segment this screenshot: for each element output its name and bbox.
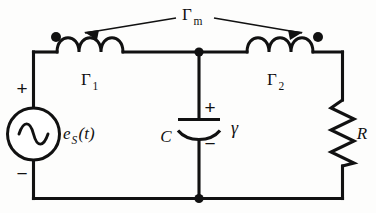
inductor-left-symbol: Γ [81,70,91,89]
label-inductor-right: Γ 2 [267,70,285,92]
resistor-zigzag [331,100,354,166]
circuit-canvas: Γ m Γ 1 Γ 2 e S (t) + − C γ + [0,0,376,213]
inductor-left-subscript: 1 [93,80,99,92]
label-mutual-coupling: Γ m [182,5,203,27]
inductor-right-coil [247,38,313,52]
inductor-right-symbol: Γ [267,70,277,89]
capacitor-polarity: + − [204,97,215,154]
coupling-dot-right [313,32,323,42]
ac-voltage-source [8,108,60,160]
capacitor-symbol: C [160,127,172,146]
source-symbol: e [63,124,71,143]
label-inductor-left: Γ 1 [81,70,99,92]
inductor-left-coil [57,38,123,52]
inductor-right [247,32,323,52]
capacitor-plus-sign: + [204,97,215,118]
source-subscript: S [72,134,78,146]
mutual-coupling-subscript: m [194,15,203,27]
inductor-right-subscript: 2 [279,80,285,92]
source-plus-sign: + [16,78,27,99]
resistor-symbol: R [356,124,368,143]
source-argument: (t) [79,124,95,143]
inductor-left [51,32,123,52]
node-bottom-middle [194,194,203,203]
node-top-middle [194,47,203,56]
mutual-coupling-symbol: Γ [182,5,192,24]
coupling-dot-left [51,32,61,42]
label-source: e S (t) [63,124,95,146]
capacitor-minus-sign: − [204,133,215,154]
source-minus-sign: − [16,163,27,184]
capacitor-voltage-symbol: γ [231,118,239,138]
resistor [331,100,354,166]
circuit-schematic: Γ m Γ 1 Γ 2 e S (t) + − C γ + [0,0,376,213]
